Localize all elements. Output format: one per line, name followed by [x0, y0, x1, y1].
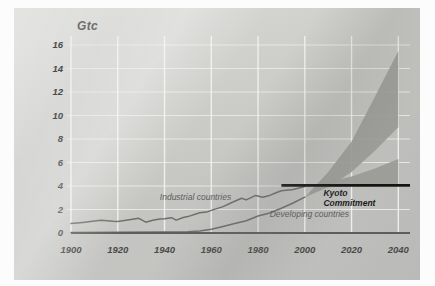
- y-axis-tick-0: 0: [37, 227, 63, 238]
- chart-plot-area: [14, 8, 420, 280]
- x-axis-tick-1980: 1980: [236, 244, 280, 255]
- x-axis-tick-1960: 1960: [189, 244, 233, 255]
- y-axis-tick-12: 12: [37, 86, 63, 97]
- x-axis-tick-1940: 1940: [143, 244, 187, 255]
- y-axis-tick-8: 8: [37, 133, 63, 144]
- series-label-industrial: Industrial countries: [160, 192, 231, 202]
- y-axis-tick-2: 2: [37, 204, 63, 215]
- x-axis-tick-2040: 2040: [376, 244, 420, 255]
- x-axis-tick-2020: 2020: [330, 244, 374, 255]
- chart-panel: Gtc 024681012141619001920194019601980200…: [14, 8, 420, 280]
- y-axis-tick-6: 6: [37, 157, 63, 168]
- kyoto-commitment-label: Kyoto Commitment: [323, 188, 375, 208]
- series-label-developing: Developing countries: [270, 209, 349, 219]
- y-axis-tick-4: 4: [37, 180, 63, 191]
- kyoto-label-line1: Kyoto: [323, 188, 375, 198]
- y-axis-tick-16: 16: [37, 39, 63, 50]
- y-axis-tick-14: 14: [37, 63, 63, 74]
- chart-figure: Gtc 024681012141619001920194019601980200…: [0, 0, 435, 286]
- x-axis-tick-1920: 1920: [96, 244, 140, 255]
- x-axis-tick-1900: 1900: [49, 244, 93, 255]
- y-axis-tick-10: 10: [37, 110, 63, 121]
- x-axis-tick-2000: 2000: [283, 244, 327, 255]
- kyoto-label-line2: Commitment: [323, 198, 375, 208]
